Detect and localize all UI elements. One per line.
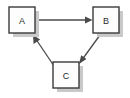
edge-a-to-b [36,17,93,24]
node-b-label: B [103,16,109,26]
diagram-canvas: A B C [0,0,130,98]
edge-b-to-c-arrowhead [79,55,86,64]
edge-b-to-c-line [82,35,101,61]
node-a[interactable]: A [9,7,39,37]
edge-b-to-c [79,35,100,64]
edge-a-to-b-arrowhead [85,17,93,24]
node-b[interactable]: B [93,7,123,37]
node-c-label: C [63,71,70,81]
node-a-label: A [19,16,25,26]
edge-c-to-a [33,35,54,66]
node-c[interactable]: C [53,62,83,92]
edge-c-to-a-line [36,39,55,67]
graph-svg: A B C [0,0,130,98]
